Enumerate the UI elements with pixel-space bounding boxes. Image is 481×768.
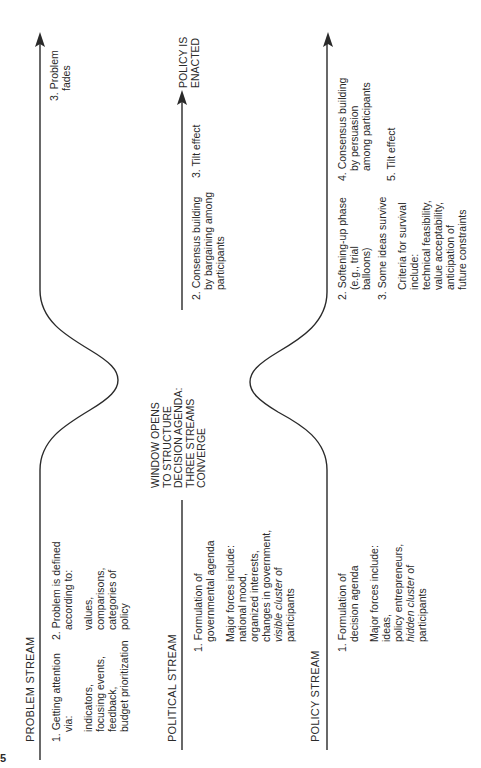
window-opens-label: WINDOW OPENS TO STRUCTURE DECISION AGEND… [150,388,208,488]
hidden-cluster-text: hidden cluster [404,577,416,642]
problem-step1: 1. Getting attention via: indicators, fo… [50,640,130,742]
problem-step2: 2. Problem is defined according to: valu… [50,541,130,640]
political-step2: 2. Consensus building by bargaining amon… [190,192,226,300]
policy-arrowhead-icon [323,32,333,47]
policy-criteria: Criteria for survival include: technical… [396,200,468,300]
policy-step5: 5. Tilt effect [385,128,397,182]
policy-step2: 2. Softening-up phase (e.g., trial ballo… [336,197,372,300]
page-number: 5 [0,752,6,764]
policy-step4: 4. Consensus building by persuasion amon… [336,78,372,181]
political-stream-title: POLITICAL STREAM [166,634,178,742]
visible-cluster-text: visible cluster [272,579,284,642]
policy-step1: 1. Formulation of decision agenda Major … [336,544,428,652]
problem-stream-title: PROBLEM STREAM [24,637,36,743]
policy-step3: 3. Some ideas survive [376,197,388,300]
problem-step3: 3. Problem fades [48,50,72,101]
political-step3: 3. Tilt effect [190,125,202,179]
policy-enacted-label: POLICY IS ENACTED [178,37,201,88]
policy-stream-title: POLICY STREAM [309,650,321,742]
political-step1: 1. Formulation of governmental agenda Ma… [192,530,296,652]
